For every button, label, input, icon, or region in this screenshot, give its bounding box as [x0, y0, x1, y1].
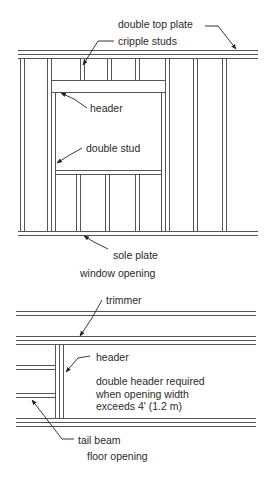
leader-floor-header: [66, 356, 90, 372]
leader-header: [61, 93, 87, 108]
double-top-plate: [18, 51, 258, 59]
leader-sole-plate: [84, 236, 108, 249]
trimmer-joist: [16, 337, 256, 345]
label-sole-plate: sole plate: [113, 249, 158, 261]
floor-header-double: [56, 345, 64, 418]
label-floor-header: header: [96, 351, 129, 363]
window-sill: [55, 171, 161, 175]
leader-double-top-plate: [205, 26, 236, 49]
note-double-header: double header required when opening widt…: [96, 375, 205, 413]
window-leaders: [57, 26, 236, 249]
window-header: [51, 81, 165, 93]
tail-beams: [16, 366, 55, 398]
label-double-stud: double stud: [86, 142, 140, 154]
top-joist: [16, 312, 256, 316]
label-window-header: header: [90, 102, 123, 114]
note-line-2: when opening width: [96, 388, 205, 401]
cripple-studs-upper: [81, 58, 140, 80]
sole-plate: [18, 232, 258, 236]
caption-window-opening: window opening: [80, 267, 155, 279]
framing-diagram: [0, 0, 271, 489]
note-line-1: double header required: [96, 375, 205, 388]
label-trimmer: trimmer: [106, 294, 142, 306]
caption-floor-opening: floor opening: [87, 450, 148, 462]
leader-double-stud: [57, 148, 82, 163]
leader-tail-beam: [32, 400, 74, 439]
note-line-3: exceeds 4' (1.2 m): [96, 400, 205, 413]
leader-trimmer: [80, 300, 102, 336]
leader-cripple-studs: [83, 41, 114, 65]
cripple-studs-lower: [77, 175, 140, 231]
label-tail-beam: tail beam: [78, 434, 121, 446]
label-cripple-studs: cripple studs: [118, 35, 177, 47]
label-double-top-plate: double top plate: [118, 18, 193, 30]
